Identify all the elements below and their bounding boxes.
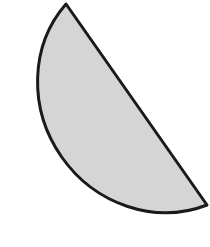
figure-canvas — [0, 0, 210, 247]
semicircle-shape — [38, 4, 207, 213]
semicircle-figure — [0, 0, 210, 247]
